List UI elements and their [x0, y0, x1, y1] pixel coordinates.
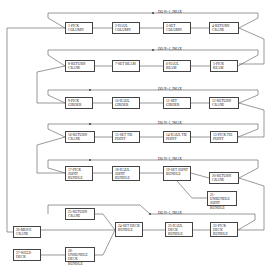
activity-box: 13-PICK TIE POINT: [210, 131, 238, 143]
activity-box: 9-PICK GIRDER: [65, 97, 93, 109]
loop-label: DO N=1, IMAX: [158, 47, 182, 51]
activity-box: 8-RETURN CRANE: [65, 60, 95, 72]
loop-label: DO N=1, IMAX: [158, 211, 182, 215]
activity-box: 2-HAUL COLUMN: [112, 22, 140, 34]
loop-label: DO N=1, IMAX: [158, 10, 182, 14]
activity-box: 7-SET BEAM: [112, 60, 140, 72]
activity-box: 27-WELD DECK: [13, 249, 41, 261]
loop-label: DO N=1, IMAX: [158, 121, 182, 125]
activity-box: 25-RETURN CRANE: [65, 208, 95, 220]
activity-box: 15-SET TIE POINT: [112, 131, 140, 143]
activity-box: 3-SET COLUMN: [163, 22, 191, 34]
activity-box: 6-HAUL BEAM: [163, 60, 191, 72]
activity-box: 12-RETURN CRANE: [209, 97, 239, 109]
activity-box: 21-UNBUNDLE JOINT BUNDLE: [207, 191, 237, 206]
activity-box: 10-HAUL GIRDER: [112, 97, 140, 109]
loop-label: DO N=1, IMAX: [158, 87, 182, 91]
loop-label: DO N=1, IMAX: [158, 157, 182, 161]
activity-box: 5-PICK BEAM: [210, 60, 238, 72]
activity-box: 17-PICK JOINT BUNDLE: [65, 166, 93, 181]
activity-box: 20-RETURN CRANE: [209, 172, 239, 184]
activity-box: 22-PICK DECK BUNDLE: [210, 222, 238, 237]
activity-box: 4-RETURN CRANE: [209, 22, 239, 34]
activity-box: 16-RETURN CRANE: [65, 131, 95, 143]
activity-box: 26-MOVE CRANE: [13, 226, 41, 238]
activity-box: 24-SET DECK BUNDLE: [115, 222, 143, 237]
activity-box: 18-HAUL JOINT BUNDLE: [112, 166, 140, 181]
activity-box: 11-SET GIRDER: [163, 97, 191, 109]
activity-box: 23-HAUL DECK BUNDLE: [165, 222, 193, 237]
activity-box: 19-SET JOINT BUNDLE: [163, 166, 191, 181]
activity-box: 1-PICK COLUMN: [65, 22, 93, 34]
activity-box: 14-HAUL TIE POINT: [163, 131, 191, 143]
activity-box: 28-UNBUNDLE DECK BUNDLE: [65, 247, 95, 262]
